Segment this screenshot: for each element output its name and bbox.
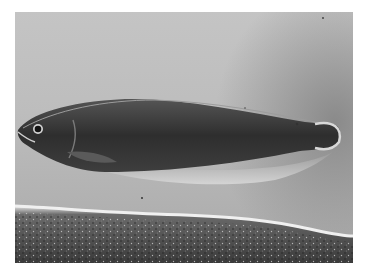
fish-photograph xyxy=(15,12,353,263)
photo-scene xyxy=(15,12,353,263)
fish-body xyxy=(18,99,341,172)
